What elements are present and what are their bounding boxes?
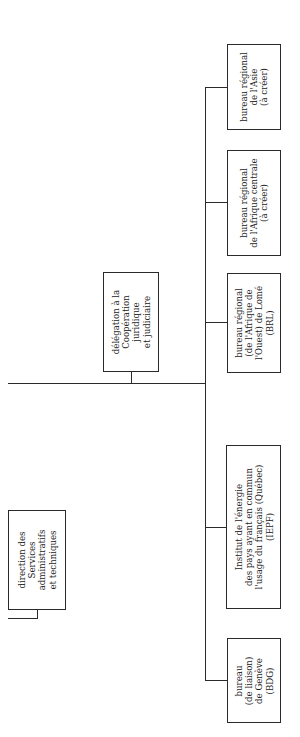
node-text-line: bureau régional <box>239 52 249 122</box>
node-text-line: direction des <box>17 530 27 591</box>
node-text-line: de l'Asie <box>249 52 259 122</box>
connector-delegation <box>131 371 132 384</box>
node-bureau-lome: bureau régional (de l'Afrique de l'Ouest… <box>227 273 281 373</box>
main-horizontal-connector <box>8 383 206 384</box>
node-text-line: Services <box>27 530 37 591</box>
node-institut-iepf: Institut de l'énergie des pays ayant en … <box>226 445 281 609</box>
node-text-line: bureau régional <box>239 158 249 247</box>
node-text-line: bureau régional <box>234 286 244 360</box>
node-text-line: et judiciaire <box>141 290 151 354</box>
node-text-line: Institut de l'énergie <box>233 465 243 590</box>
node-text-line: et techniques <box>47 530 57 591</box>
node-text-line: Coopération <box>121 290 131 354</box>
regional-vertical-bus <box>205 87 206 681</box>
connector-afrique-centrale <box>205 202 227 203</box>
node-text-line: l'Ouest) de Lomé <box>254 286 264 360</box>
connector-direction-horizontal <box>8 618 38 619</box>
connector-asie <box>205 87 227 88</box>
node-delegation-cooperation: délégation à la Coopération juridique et… <box>103 272 159 372</box>
node-bureau-geneve: bureau (de liaison) de Genève (BDG) <box>227 638 281 723</box>
node-text-line: de l'Afrique centrale <box>249 158 259 247</box>
node-text-line: délégation à la <box>111 290 121 354</box>
org-chart: bureau régional de l'Asie (à créer) bure… <box>0 0 300 737</box>
node-text-line: administratifs <box>37 530 47 591</box>
node-text-line: des pays ayant en commun <box>243 465 253 590</box>
node-text-line: (à créer) <box>259 52 269 122</box>
connector-geneve <box>205 680 227 681</box>
node-text-line: (de l'Afrique de <box>244 286 254 360</box>
node-bureau-afrique-centrale: bureau régional de l'Afrique centrale (à… <box>227 150 281 256</box>
node-bureau-asie: bureau régional de l'Asie (à créer) <box>227 44 281 130</box>
node-text-line: juridique <box>131 290 141 354</box>
connector-iepf <box>205 527 227 528</box>
node-text-line: (BDG) <box>264 656 274 705</box>
node-text-line: l'usage du français (Québec) <box>254 465 264 590</box>
node-direction-services: direction des Services administratifs et… <box>8 510 66 610</box>
connector-lome <box>205 322 227 323</box>
node-text-line: de Genève <box>254 656 264 705</box>
node-text-line: (IEPF) <box>264 465 274 590</box>
node-text-line: bureau <box>234 656 244 705</box>
node-text-line: (de liaison) <box>244 656 254 705</box>
node-text-line: (à créer) <box>259 158 269 247</box>
node-text-line: (BRL) <box>264 286 274 360</box>
